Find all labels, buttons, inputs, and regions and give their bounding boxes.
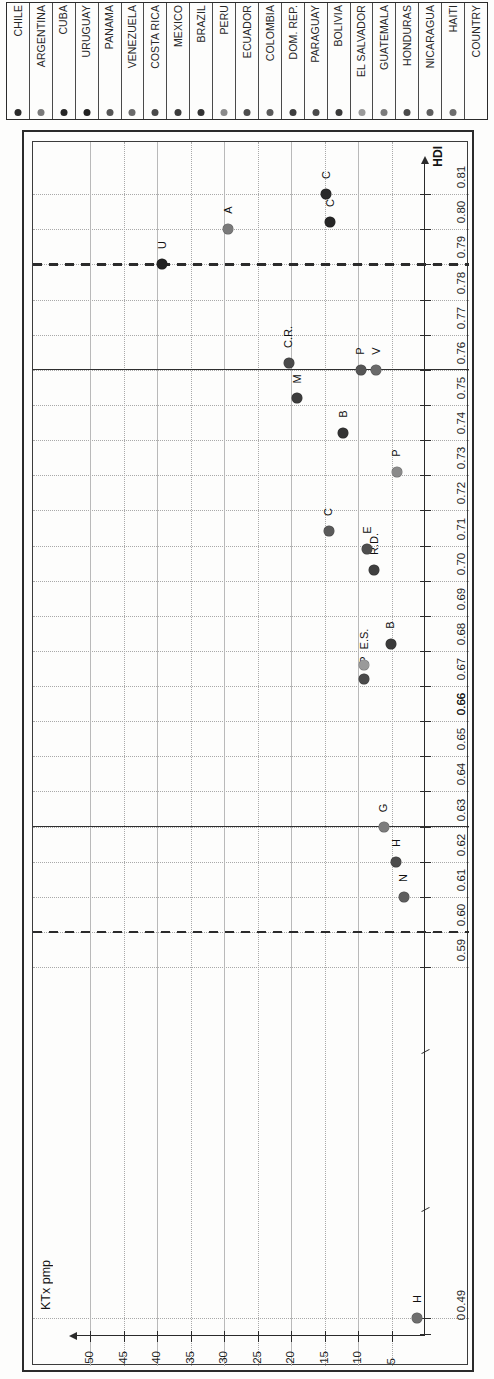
legend-item-cuba[interactable]: CUBA: [52, 3, 75, 119]
hdi-tick-label: 0.65: [456, 728, 468, 750]
legend-item-haiti[interactable]: HAITI: [441, 3, 464, 119]
legend-item-mexico[interactable]: MEXICO: [166, 3, 189, 119]
data-point-costa-rica[interactable]: [283, 357, 294, 368]
hdi-axis-line: [424, 162, 425, 1336]
hdi-tick-label: 0.76: [456, 342, 468, 364]
data-point-uruguay[interactable]: [157, 259, 168, 270]
ktx-tick-label: 30: [218, 1351, 230, 1364]
legend-item-costa-rica[interactable]: COSTA RICA: [143, 3, 166, 119]
hdi-axis-arrow: [421, 156, 429, 164]
legend-item-nicaragua[interactable]: NICARAGUA: [418, 3, 441, 119]
hdi-tick: [420, 264, 431, 265]
hdi-tick: [420, 862, 431, 863]
data-point-label: B: [385, 621, 396, 628]
legend-item-peru[interactable]: PERU: [212, 3, 235, 119]
hdi-tick-label: 0.49: [456, 1290, 468, 1312]
gridline-hdi: [33, 510, 469, 511]
data-point-cuba[interactable]: [325, 217, 336, 228]
legend-color-dot-icon: [83, 109, 90, 116]
data-point-label: U: [157, 241, 168, 249]
legend-color-dot-icon: [427, 109, 434, 116]
hdi-tick-label: 0.64: [456, 763, 468, 785]
legend-item-label: NICARAGUA: [425, 5, 436, 68]
legend-color-dot-icon: [266, 109, 273, 116]
legend-item-venezuela[interactable]: VENEZUELA: [121, 3, 144, 119]
legend-item-bolivia[interactable]: BOLIVIA: [327, 3, 350, 119]
hdi-tick-label: 0.62: [456, 833, 468, 855]
legend-item-brazil[interactable]: BRAZIL: [189, 3, 212, 119]
legend-item-dom-rep[interactable]: DOM. REP.: [281, 3, 304, 119]
legend-item-el-salvador[interactable]: EL SALVADOR: [350, 3, 373, 119]
data-point-honduras[interactable]: [391, 856, 402, 867]
legend-item-label: EL SALVADOR: [356, 5, 367, 77]
gridline-hdi: [33, 546, 469, 547]
ktx-tick: [392, 1331, 393, 1342]
data-point-colombia[interactable]: [323, 526, 334, 537]
legend-item-panama[interactable]: PANAMA: [98, 3, 121, 119]
data-point-label: V: [371, 347, 382, 354]
hdi-tick: [420, 616, 431, 617]
legend-item-guatemala[interactable]: GUATEMALA: [372, 3, 395, 119]
data-point-label: G: [378, 803, 389, 812]
hdi-tick-label: 0.77: [456, 306, 468, 328]
data-point-chile[interactable]: [321, 189, 332, 200]
hdi-tick-label: 0.79: [456, 236, 468, 258]
data-point-bolivia[interactable]: [385, 638, 396, 649]
data-point-panama[interactable]: [355, 364, 366, 375]
gridline-ktx: [124, 142, 125, 1366]
reference-line-0-6: [33, 931, 469, 933]
hdi-tick: [420, 510, 431, 511]
legend-item-paraguay[interactable]: PARAGUAY: [304, 3, 327, 119]
data-point-guatemala[interactable]: [378, 821, 389, 832]
ktx-tick-label: 15: [319, 1351, 331, 1364]
ktx-tick-label: 50: [84, 1351, 96, 1364]
data-point-haiti[interactable]: [412, 1313, 423, 1324]
axis-break-mark: [421, 1049, 429, 1054]
gridline-ktx: [90, 142, 91, 1366]
hdi-tick-label: 0.63: [456, 798, 468, 820]
ktx-tick-label: 10: [352, 1351, 364, 1364]
gridline-hdi: [33, 194, 469, 195]
hdi-tick: [420, 827, 431, 828]
ktx-tick: [325, 1331, 326, 1342]
country-legend: COUNTRYHAITINICARAGUAHONDURASGUATEMALAEL…: [6, 2, 488, 120]
hdi-tick: [420, 194, 431, 195]
data-point-paraguay[interactable]: [359, 674, 370, 685]
data-point-dom-rep[interactable]: [369, 565, 380, 576]
data-point-label: M: [292, 374, 303, 383]
legend-item-uruguay[interactable]: URUGUAY: [75, 3, 98, 119]
data-point-mexico[interactable]: [292, 392, 303, 403]
hdi-tick: [420, 475, 431, 476]
ktx-tick: [291, 1331, 292, 1342]
legend-item-label: COSTA RICA: [150, 5, 161, 69]
legend-item-argentina[interactable]: ARGENTINA: [29, 3, 52, 119]
ktx-tick-label: 5: [386, 1358, 398, 1364]
legend-color-dot-icon: [221, 109, 228, 116]
hdi-tick: [420, 756, 431, 757]
legend-item-honduras[interactable]: HONDURAS: [395, 3, 418, 119]
gridline-hdi: [33, 405, 469, 406]
data-point-label: E: [362, 526, 373, 533]
ktx-tick: [258, 1331, 259, 1342]
legend-item-colombia[interactable]: COLOMBIA: [258, 3, 281, 119]
gridline-hdi: [33, 440, 469, 441]
data-point-venezuela[interactable]: [371, 364, 382, 375]
gridline-hdi: [33, 616, 469, 617]
data-point-el-salvador[interactable]: [359, 659, 370, 670]
hdi-tick-label: 0.68: [456, 623, 468, 645]
data-point-peru[interactable]: [391, 466, 402, 477]
data-point-ecuador[interactable]: [362, 544, 373, 555]
ktx-tick-label: 35: [185, 1351, 197, 1364]
data-point-brazil[interactable]: [338, 428, 349, 439]
hdi-tick: [420, 686, 431, 687]
data-point-label: C: [325, 199, 336, 207]
gridline-ktx: [358, 142, 359, 1366]
hdi-tick-label: 0.78: [456, 271, 468, 293]
hdi-tick-label: 0.73: [456, 447, 468, 469]
legend-item-chile[interactable]: CHILE: [7, 3, 29, 119]
legend-item-ecuador[interactable]: ECUADOR: [235, 3, 258, 119]
data-point-argentina[interactable]: [223, 224, 234, 235]
data-point-nicaragua[interactable]: [398, 891, 409, 902]
legend-item-label: ECUADOR: [242, 5, 253, 58]
reference-line-0-63: [33, 826, 469, 827]
